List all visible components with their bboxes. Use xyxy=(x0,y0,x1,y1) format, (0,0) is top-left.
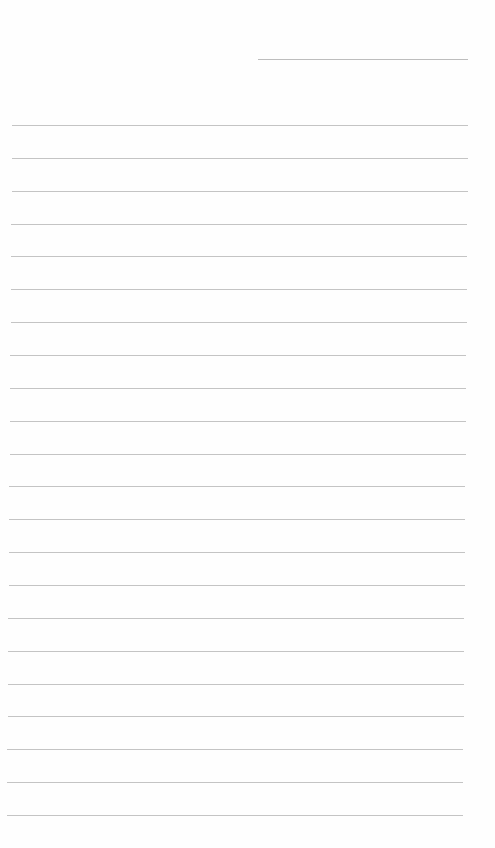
ruled-line xyxy=(8,684,464,685)
lined-paper-page xyxy=(0,0,495,848)
ruled-line xyxy=(10,388,466,389)
ruled-line xyxy=(7,815,463,816)
ruled-line xyxy=(8,651,464,652)
ruled-line xyxy=(12,191,468,192)
ruled-line xyxy=(9,519,465,520)
ruled-line xyxy=(11,322,467,323)
ruled-line xyxy=(7,782,463,783)
header-date-line xyxy=(258,59,468,60)
ruled-line xyxy=(9,585,465,586)
ruled-line xyxy=(9,486,465,487)
ruled-line xyxy=(9,552,465,553)
ruled-line xyxy=(10,421,466,422)
ruled-line xyxy=(12,125,468,126)
ruled-line xyxy=(11,256,467,257)
ruled-line xyxy=(10,355,466,356)
ruled-line xyxy=(11,224,467,225)
ruled-line xyxy=(11,289,467,290)
ruled-line xyxy=(8,716,464,717)
ruled-line xyxy=(10,454,466,455)
ruled-line xyxy=(12,158,468,159)
ruled-line xyxy=(8,618,464,619)
ruled-line xyxy=(7,749,463,750)
